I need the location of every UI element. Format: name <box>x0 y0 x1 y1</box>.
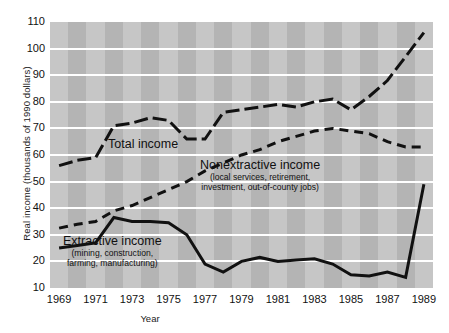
x-axis-tick-label: 1973 <box>112 294 152 305</box>
x-axis-tick-label: 1983 <box>294 294 334 305</box>
chart-figure: Real income (thousands of 1990 dollars) … <box>0 0 449 333</box>
annotation-nonextractive-income: Nonextractive income (local services, re… <box>200 158 320 192</box>
annotation-nonextractive-sub2: investment, out-of-county jobs) <box>200 182 320 192</box>
y-axis-tick-label: 70 <box>20 122 45 133</box>
annotation-total-income: Total income <box>108 137 178 151</box>
y-axis-tick-label: 60 <box>20 149 45 160</box>
y-axis-tick-label: 30 <box>20 229 45 240</box>
x-axis-title: Year <box>0 313 300 324</box>
y-axis-tick-label: 80 <box>20 96 45 107</box>
annotation-nonextractive-title: Nonextractive income <box>200 158 320 172</box>
y-axis-tick-label: 40 <box>20 202 45 213</box>
x-axis-tick-label: 1981 <box>258 294 298 305</box>
annotation-extractive-sub1: (mining, construction, <box>63 248 162 258</box>
x-axis-tick-label: 1977 <box>185 294 225 305</box>
annotation-total-title: Total income <box>108 137 178 151</box>
x-axis-tick-label: 1979 <box>222 294 262 305</box>
x-axis-tick-label: 1985 <box>331 294 371 305</box>
x-axis-tick-label: 1971 <box>76 294 116 305</box>
annotation-extractive-title: Extractive income <box>63 234 162 248</box>
x-axis-tick-label: 1989 <box>404 294 444 305</box>
x-axis-tick-label: 1969 <box>39 294 79 305</box>
x-axis-tick-label: 1987 <box>367 294 407 305</box>
annotation-extractive-income: Extractive income (mining, construction,… <box>63 234 162 268</box>
y-axis-tick-label: 10 <box>20 282 45 293</box>
y-axis-tick-label: 90 <box>20 69 45 80</box>
y-axis-tick-label: 100 <box>20 43 45 54</box>
y-axis-tick-label: 110 <box>20 16 45 27</box>
annotation-extractive-sub2: farming, manufacturing) <box>63 258 162 268</box>
annotation-nonextractive-sub1: (local services, retirement, <box>200 172 320 182</box>
x-axis-tick-label: 1975 <box>149 294 189 305</box>
y-axis-tick-label: 20 <box>20 255 45 266</box>
y-axis-tick-label: 50 <box>20 176 45 187</box>
